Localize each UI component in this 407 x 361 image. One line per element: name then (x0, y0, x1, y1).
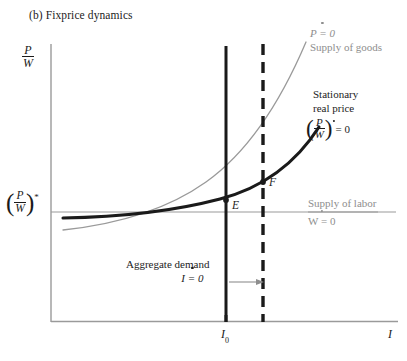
supply-of-labor-label: Supply of labor (308, 197, 376, 211)
x-tick-label-subscript: 0 (225, 336, 229, 345)
w-dot-equals-zero: W = 0 (308, 215, 335, 229)
supply-of-goods-curve (63, 42, 306, 230)
stationary-line-2: real price (313, 102, 354, 114)
y-axis-label-denominator: W (22, 56, 34, 69)
y-tick-numerator: P (14, 190, 26, 202)
y-axis-label: P W (22, 44, 34, 70)
i-dot-equals-zero: I = 0 (126, 272, 209, 286)
supply-of-goods-annotation: P = 0 Supply of goods (310, 27, 382, 55)
stationary-eq-numerator: P (314, 117, 325, 128)
point-e-marker (223, 197, 229, 203)
eq-paren-close: ) (325, 117, 333, 140)
stationary-line-1: Stationary (313, 88, 358, 100)
stationary-real-price-equation: ( P W ) = 0 (306, 117, 350, 141)
aggregate-demand-annotation: Aggregate demand I = 0 (126, 258, 209, 286)
eq-paren-open: ( (306, 117, 314, 140)
supply-of-goods-label: Supply of goods (310, 41, 382, 53)
point-f-label: F (269, 176, 276, 188)
paren-close: ) (26, 190, 34, 215)
point-e-label: E (232, 199, 239, 211)
x-axis-label: I (388, 327, 392, 342)
aggregate-demand-label: Aggregate demand (126, 258, 209, 270)
y-tick-label-equilibrium: ( P W ) * (6, 190, 39, 215)
shift-arrow (229, 279, 264, 285)
y-tick-denominator: W (14, 202, 26, 215)
stationary-eq-denominator: W (314, 128, 325, 140)
stationary-real-price-annotation: Stationary real price (313, 88, 358, 116)
p-dot-equals-zero: P = 0 (310, 27, 335, 41)
stationary-real-price-curve (63, 127, 319, 218)
y-axis-label-numerator: P (22, 44, 34, 56)
x-tick-label-i0: I0 (221, 327, 229, 343)
stationary-eq-rhs: = 0 (336, 123, 350, 135)
point-f-marker (260, 179, 266, 185)
paren-open: ( (6, 190, 14, 215)
y-tick-star: * (34, 192, 39, 202)
